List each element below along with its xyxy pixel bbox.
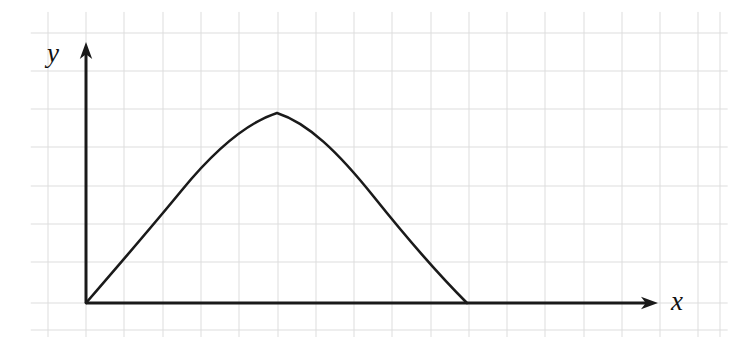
x-axis-label: x (670, 286, 683, 316)
axes (80, 42, 658, 309)
grid (31, 12, 728, 337)
y-axis-label: y (44, 38, 59, 68)
figure-root: x y (0, 0, 735, 337)
graph-canvas: x y (0, 0, 735, 337)
trajectory-curve (86, 113, 467, 303)
